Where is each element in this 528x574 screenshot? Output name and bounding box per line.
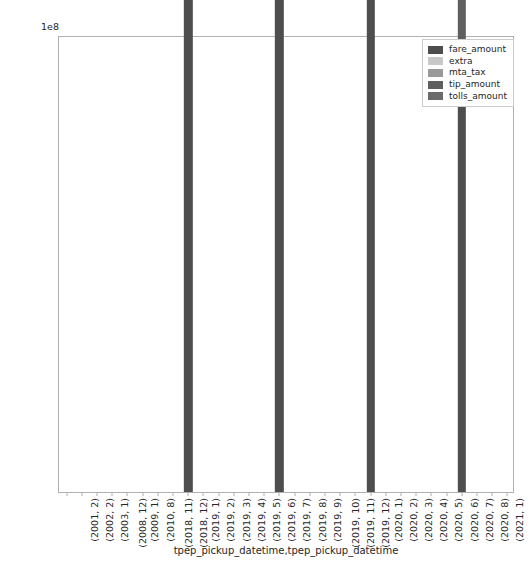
x-tick-label: (2003, 1) bbox=[119, 454, 130, 498]
x-tick-mark bbox=[340, 492, 341, 496]
x-tick-mark bbox=[446, 492, 447, 496]
x-tick-label: (2019, 7) bbox=[301, 454, 312, 498]
x-tick-mark bbox=[97, 492, 98, 496]
x-tick-label: (2019, 3) bbox=[240, 454, 251, 498]
x-tick-mark bbox=[157, 492, 158, 496]
legend-label: extra bbox=[449, 57, 472, 66]
legend-item: fare_amount bbox=[428, 44, 507, 56]
x-tick-mark bbox=[112, 492, 113, 496]
x-tick-label: (2021, 1) bbox=[514, 454, 525, 498]
bar-segment-fare-amount bbox=[275, 0, 283, 492]
bar bbox=[184, 0, 192, 492]
x-tick-label: (2019, 12) bbox=[380, 448, 391, 498]
x-tick-label: (2020, 1) bbox=[392, 454, 403, 498]
x-tick-label: (2019, 9) bbox=[332, 454, 343, 498]
legend-label: tip_amount bbox=[449, 80, 500, 89]
bar bbox=[275, 0, 283, 492]
bar-segment-fare-amount bbox=[184, 0, 192, 492]
x-tick-mark bbox=[264, 492, 265, 496]
x-tick-label: (2019, 2) bbox=[225, 454, 236, 498]
x-tick-mark bbox=[188, 492, 189, 496]
x-tick-label: (2020, 2) bbox=[408, 454, 419, 498]
x-tick-label: (2019, 1) bbox=[210, 454, 221, 498]
x-tick-label: (2020, 6) bbox=[468, 454, 479, 498]
x-tick-mark bbox=[370, 492, 371, 496]
x-tick-mark bbox=[279, 492, 280, 496]
x-tick-mark bbox=[355, 492, 356, 496]
bar bbox=[366, 0, 374, 492]
x-tick-label: (2001, 2) bbox=[88, 454, 99, 498]
x-tick-label: (2019, 8) bbox=[316, 454, 327, 498]
matplotlib-figure: 1e8 0.20.40.60.81.01.2 (2001, 2)(2002, 2… bbox=[0, 0, 528, 574]
x-tick-mark bbox=[249, 492, 250, 496]
x-tick-mark bbox=[309, 492, 310, 496]
legend-swatch-tolls-amount bbox=[428, 92, 443, 100]
x-tick-mark bbox=[203, 492, 204, 496]
x-tick-label: (2008, 12) bbox=[137, 448, 148, 498]
x-tick-mark bbox=[431, 492, 432, 496]
x-tick-mark bbox=[477, 492, 478, 496]
x-tick-label: (2010, 8) bbox=[164, 454, 175, 498]
x-tick-mark bbox=[142, 492, 143, 496]
x-tick-label: (2020, 4) bbox=[438, 454, 449, 498]
x-tick-mark bbox=[385, 492, 386, 496]
x-tick-mark bbox=[461, 492, 462, 496]
x-axis-title: tpep_pickup_datetime,tpep_pickup_datetim… bbox=[58, 545, 514, 556]
x-tick-label: (2020, 8) bbox=[499, 454, 510, 498]
y-axis-exponent-label: 1e8 bbox=[41, 21, 59, 32]
legend-item: tolls_amount bbox=[428, 90, 507, 102]
legend-label: mta_tax bbox=[449, 68, 486, 77]
chart-legend: fare_amountextramta_taxtip_amounttolls_a… bbox=[422, 39, 514, 107]
x-tick-mark bbox=[81, 492, 82, 496]
x-tick-mark bbox=[66, 492, 67, 496]
x-tick-label: (2009, 1) bbox=[149, 454, 160, 498]
x-tick-mark bbox=[173, 492, 174, 496]
legend-item: mta_tax bbox=[428, 67, 507, 79]
x-tick-mark bbox=[294, 492, 295, 496]
legend-label: tolls_amount bbox=[449, 92, 507, 101]
x-tick-label: (2019, 10) bbox=[350, 448, 361, 498]
x-tick-mark bbox=[401, 492, 402, 496]
x-tick-mark bbox=[127, 492, 128, 496]
x-tick-mark bbox=[492, 492, 493, 496]
x-tick-mark bbox=[218, 492, 219, 496]
legend-swatch-mta-tax bbox=[428, 69, 443, 77]
legend-swatch-extra bbox=[428, 57, 443, 65]
x-tick-mark bbox=[416, 492, 417, 496]
x-tick-label: (2019, 6) bbox=[286, 454, 297, 498]
x-tick-mark bbox=[325, 492, 326, 496]
legend-item: extra bbox=[428, 56, 507, 68]
x-tick-label: (2002, 2) bbox=[104, 454, 115, 498]
x-tick-mark bbox=[233, 492, 234, 496]
x-tick-label: (2018, 12) bbox=[198, 448, 209, 498]
legend-item: tip_amount bbox=[428, 79, 507, 91]
legend-label: fare_amount bbox=[449, 45, 506, 54]
x-tick-label: (2020, 3) bbox=[423, 454, 434, 498]
x-tick-label: (2019, 4) bbox=[256, 454, 267, 498]
bar-segment-fare-amount bbox=[458, 86, 466, 492]
x-tick-mark bbox=[507, 492, 508, 496]
x-tick-label: (2020, 7) bbox=[484, 454, 495, 498]
bar-segment-fare-amount bbox=[366, 0, 374, 492]
legend-swatch-tip-amount bbox=[428, 81, 443, 89]
legend-swatch-fare-amount bbox=[428, 46, 443, 54]
